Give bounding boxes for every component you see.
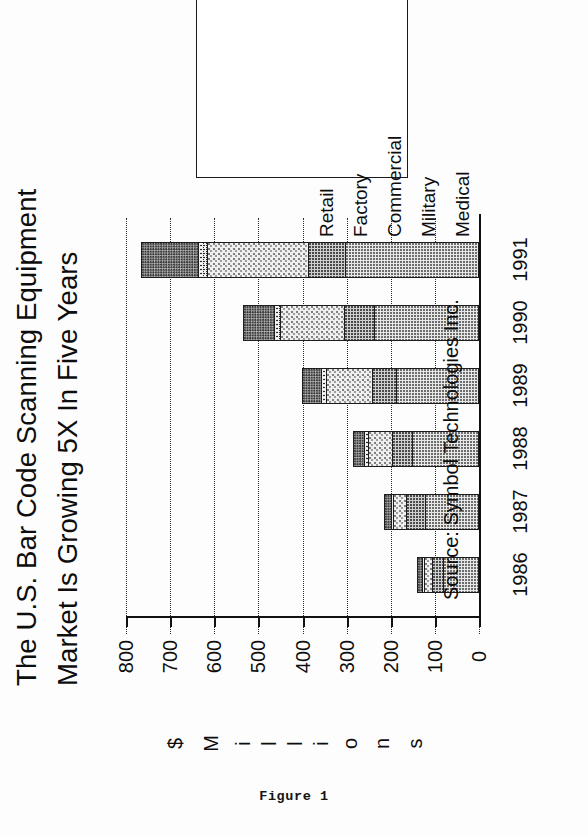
gridline-700 [170,218,171,634]
figure-caption: Figure 1 [0,789,588,804]
bar-segment-1989-factory [373,369,397,403]
axis-title-letter: n [371,737,394,748]
tick-label-600: 600 [203,634,226,680]
axis-title-letter: l [258,741,281,745]
bar-segment-1986-commercial [425,558,434,592]
axis-title-letter: s [403,738,426,748]
bar-segment-1990-commercial [281,306,344,340]
tickmark-500 [258,616,260,627]
legend-label: Military [418,177,440,237]
plot-area [126,236,479,616]
chart-legend: RetailFactoryCommercialMilitaryMedical [196,0,408,178]
year-label-1991: 1991 [509,230,532,290]
source-note: Source: Symbol Technologies Inc. [440,300,466,600]
figure-page: The U.S. Bar Code Scanning Equipment Mar… [0,0,588,837]
legend-label: Retail [316,188,338,237]
bar-segment-1988-factory [393,432,413,466]
year-label-1989: 1989 [509,356,532,416]
axis-title-letter: i [309,741,332,745]
tick-label-800: 800 [115,634,138,680]
category-axis-line [479,214,481,618]
tickmark-800 [126,616,128,627]
tick-label-200: 200 [379,634,402,680]
year-label-1990: 1990 [509,293,532,353]
tickmark-400 [303,616,305,627]
chart-title: The U.S. Bar Code Scanning Equipment Mar… [6,66,98,686]
tickmark-700 [170,616,172,627]
tick-label-300: 300 [335,634,358,680]
year-label-1986: 1986 [509,545,532,605]
gridline-400 [303,218,304,634]
bar-segment-1991-factory [309,243,346,277]
bar-segment-1989-medical [303,369,323,403]
tick-label-400: 400 [291,634,314,680]
gridline-800 [126,218,127,634]
year-label-1988: 1988 [509,419,532,479]
bar-segment-1991-commercial [208,243,309,277]
tick-label-700: 700 [159,634,182,680]
bar-segment-1991-medical [142,243,199,277]
tickmark-100 [435,616,437,627]
bar-segment-1990-medical [244,306,275,340]
gridline-500 [258,218,259,634]
bar-segment-1991-retail [346,243,478,277]
axis-title-letter: i [232,741,255,745]
legend-label: Medical [452,172,474,237]
axis-title-letter: $ [164,737,187,748]
tick-label-0: 0 [468,634,491,680]
bar-segment-1988-medical [354,432,365,466]
bar-1991 [141,242,479,278]
axis-title-letter: l [283,741,306,745]
bar-segment-1987-commercial [394,495,407,529]
gridline-300 [347,218,348,634]
year-label-1987: 1987 [509,482,532,542]
bar-segment-1990-factory [345,306,376,340]
legend-label: Commercial [384,136,406,237]
tick-label-100: 100 [423,634,446,680]
chart-title-line-1: The U.S. Bar Code Scanning Equipment [6,189,47,686]
value-axis-title: $Millions [170,728,420,758]
tickmark-0 [479,616,481,627]
bar-segment-1991-military [199,243,208,277]
bar-segment-1987-factory [407,495,426,529]
tickmark-600 [214,616,216,627]
bar-segment-1989-commercial [327,369,373,403]
gridline-200 [391,218,392,634]
tickmark-200 [391,616,393,627]
bar-segment-1988-commercial [369,432,393,466]
tick-label-500: 500 [247,634,270,680]
gridline-600 [214,218,215,634]
legend-label: Factory [350,174,372,237]
axis-title-letter: M [199,735,222,752]
tickmark-300 [347,616,349,627]
chart-title-line-2: Market Is Growing 5X In Five Years [47,252,88,686]
axis-title-letter: o [339,737,362,748]
